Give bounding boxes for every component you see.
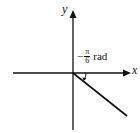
- y-axis-arrow-icon: [70, 10, 77, 18]
- terminal-ray: [73, 73, 127, 116]
- angle-label: − π 6 rad: [77, 48, 107, 65]
- angle-sign: −: [77, 51, 83, 62]
- x-axis-arrow-icon: [123, 70, 131, 77]
- x-axis-label: x: [132, 64, 137, 76]
- angle-denominator: 6: [85, 57, 89, 65]
- angle-unit: rad: [93, 51, 107, 62]
- y-axis-label: y: [62, 3, 67, 15]
- angle-diagram: [0, 0, 140, 133]
- angle-fraction: π 6: [84, 48, 90, 65]
